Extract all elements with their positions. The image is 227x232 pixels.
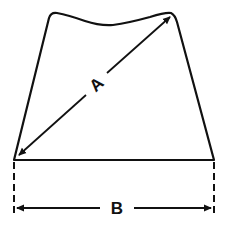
dimension-diagram: A B bbox=[0, 0, 227, 232]
dimension-a-line-lower bbox=[19, 95, 86, 155]
dimension-a-label: A bbox=[86, 73, 108, 95]
dimension-b-label: B bbox=[111, 199, 123, 218]
shape-outline bbox=[14, 13, 214, 160]
